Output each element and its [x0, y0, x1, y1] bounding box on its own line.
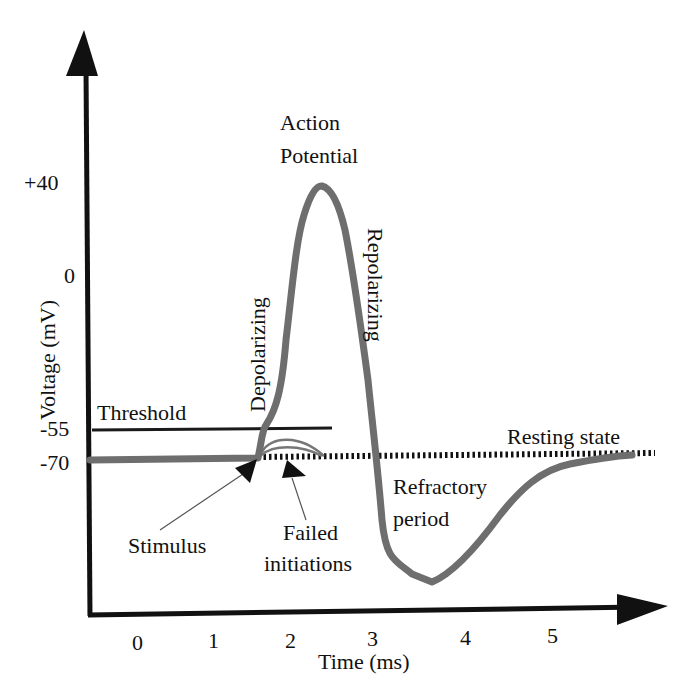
x-axis-title: Time (ms) — [318, 649, 409, 674]
depolarizing-label: Depolarizing — [245, 297, 270, 412]
stimulus-arrow-icon — [235, 459, 257, 483]
title-line2: Potential — [280, 143, 358, 168]
threshold-line — [92, 428, 332, 430]
repolarizing-label: Repolarizing — [363, 228, 388, 342]
x-tick-5: 5 — [547, 623, 558, 648]
x-tick-1: 1 — [208, 628, 219, 653]
x-tick-4: 4 — [460, 625, 471, 650]
y-axis-arrow-icon — [66, 30, 98, 76]
x-axis-arrow-icon — [617, 594, 668, 625]
title-line1: Action — [280, 110, 340, 135]
y-tick-0: 0 — [64, 263, 75, 288]
failed-initiations-label-line1: Failed — [283, 520, 338, 545]
resting-state-label: Resting state — [507, 424, 620, 449]
y-tick-plus40: +40 — [24, 170, 58, 195]
diagram-canvas: +40 0 -55 -70 Voltage (mV) 0 1 2 3 4 5 T… — [0, 0, 683, 700]
y-tick-minus70: -70 — [40, 450, 69, 475]
failed-initiations-label-line2: initiations — [264, 551, 352, 576]
stimulus-label: Stimulus — [128, 533, 206, 558]
failed-initiations-arrow-icon — [282, 460, 306, 478]
x-tick-3: 3 — [367, 626, 378, 651]
y-axis — [86, 70, 90, 616]
action-potential-diagram: +40 0 -55 -70 Voltage (mV) 0 1 2 3 4 5 T… — [0, 0, 683, 700]
x-axis — [88, 607, 640, 615]
y-axis-title: Voltage (mV) — [35, 300, 60, 420]
x-tick-0: 0 — [132, 630, 143, 655]
threshold-label: Threshold — [97, 400, 186, 425]
refractory-label-line2: period — [393, 506, 449, 531]
refractory-label-line1: Refractory — [393, 474, 487, 499]
stimulus-pointer-line — [160, 472, 246, 530]
x-tick-2: 2 — [285, 628, 296, 653]
failed-initiations-pointer-line — [292, 478, 306, 520]
